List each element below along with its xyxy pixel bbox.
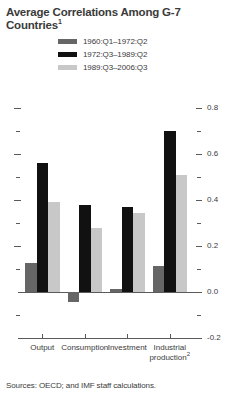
y-axis-tick: [196, 200, 202, 201]
y-axis-minor-tick: [197, 131, 201, 132]
bar: [37, 163, 49, 292]
category-label-superscript: 2: [187, 351, 190, 357]
y-axis-minor-tick: [197, 315, 201, 316]
bar: [122, 207, 134, 292]
bottom-axis-line: [18, 338, 202, 339]
zero-axis-line: [18, 292, 202, 293]
bar: [164, 131, 176, 292]
y-axis-tick: [196, 108, 202, 109]
y-axis-minor-tick-left: [16, 131, 20, 132]
y-axis-tick-left: [14, 108, 21, 109]
y-axis-tick-label: 0.8: [207, 103, 218, 112]
y-axis-minor-tick: [197, 269, 201, 270]
x-axis-category-label: Industrialproduction2: [138, 343, 202, 363]
y-axis-tick-label: 0.6: [207, 149, 218, 158]
y-axis-minor-tick-left: [16, 315, 20, 316]
y-axis-tick-left: [14, 154, 21, 155]
y-axis-minor-tick-left: [16, 269, 20, 270]
bar: [48, 202, 60, 292]
category-label-line: production2: [138, 353, 202, 363]
y-axis-tick-label: 0.0: [207, 287, 218, 296]
bar: [79, 205, 91, 292]
y-axis-minor-tick-left: [16, 177, 20, 178]
y-axis-minor-tick: [197, 177, 201, 178]
bar: [176, 175, 188, 292]
x-axis-tick: [127, 334, 128, 338]
x-axis-tick: [85, 334, 86, 338]
bar: [153, 266, 165, 292]
bar: [68, 292, 80, 302]
y-axis-minor-tick-left: [16, 223, 20, 224]
y-axis-minor-tick: [197, 223, 201, 224]
category-label-line: Industrial: [138, 343, 202, 353]
source-note: Sources: OECD; and IMF staff calculation…: [6, 381, 156, 390]
y-axis-tick-label: -0.2: [207, 333, 221, 342]
bar: [25, 263, 37, 292]
bar: [133, 213, 145, 292]
y-axis-tick: [196, 246, 202, 247]
y-axis-tick-label: 0.4: [207, 195, 218, 204]
y-axis-tick-label: 0.2: [207, 241, 218, 250]
y-axis-tick: [196, 154, 202, 155]
bar: [110, 289, 122, 292]
x-axis-tick: [170, 334, 171, 338]
bar: [91, 228, 103, 292]
y-axis-tick-left: [14, 246, 21, 247]
y-axis-tick-left: [14, 200, 21, 201]
chart-plot-area: 0.80.60.40.20.0-0.2OutputConsumptionInve…: [0, 0, 242, 401]
x-axis-tick: [42, 334, 43, 338]
